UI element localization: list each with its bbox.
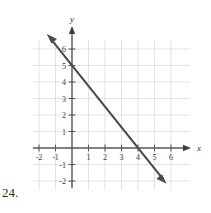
x-tick-label: 4 <box>136 153 140 162</box>
y-axis-arrowhead <box>69 26 75 34</box>
line-arrowhead-end <box>156 174 166 184</box>
x-tick-label: -2 <box>36 153 43 162</box>
y-tick-label: -2 <box>59 177 66 186</box>
y-tick-labels: 6 5 4 3 2 1 -1 -2 <box>59 45 66 186</box>
coordinate-plane-graph: -2 -1 1 2 3 4 5 6 6 5 4 3 2 1 -1 -2 x y <box>0 0 211 213</box>
y-tick-label: 3 <box>62 95 66 104</box>
x-tick-label: 5 <box>153 153 157 162</box>
problem-number-label: 24. <box>2 186 18 200</box>
x-tick-label: 1 <box>87 153 91 162</box>
x-tick-label: 2 <box>103 153 107 162</box>
x-axis-label: x <box>196 143 201 153</box>
x-tick-label: 3 <box>120 153 124 162</box>
y-tick-label: 4 <box>62 78 66 87</box>
y-axis-label: y <box>69 14 74 24</box>
y-tick-label: 1 <box>62 128 66 137</box>
y-tick-label: 5 <box>62 62 66 71</box>
x-tick-label: 6 <box>169 153 173 162</box>
axis-arrowheads <box>69 26 191 151</box>
y-tick-label: -1 <box>59 161 66 170</box>
x-tick-label: -1 <box>52 153 59 162</box>
graph-figure: -2 -1 1 2 3 4 5 6 6 5 4 3 2 1 -1 -2 x y <box>0 0 211 213</box>
y-tick-label: 2 <box>62 111 66 120</box>
x-axis-arrowhead <box>183 145 191 151</box>
x-tick-labels: -2 -1 1 2 3 4 5 6 <box>36 153 173 162</box>
